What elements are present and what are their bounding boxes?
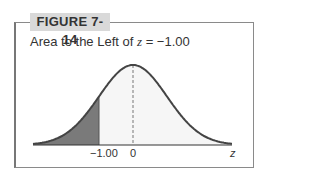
axis-label-z: z xyxy=(230,147,236,159)
tick-zero: 0 xyxy=(130,147,136,159)
tick-neg-one: −1.00 xyxy=(90,147,118,159)
